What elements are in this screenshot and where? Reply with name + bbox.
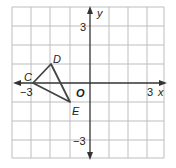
vertex-label-c: C [24, 71, 32, 83]
vertex-label-e: E [72, 105, 80, 117]
y-tick-pos: 3 [80, 21, 86, 33]
vertex-label-d: D [53, 53, 61, 65]
x-tick-neg: −3 [20, 86, 33, 98]
y-axis-arrow-down-icon [87, 152, 93, 160]
y-axis-label: y [96, 7, 104, 19]
x-tick-pos: 3 [147, 86, 153, 98]
origin-label: O [76, 87, 85, 99]
coordinate-grid: y x O 3 −3 −3 3 C D E [0, 0, 176, 168]
y-tick-neg: −3 [73, 135, 86, 147]
x-axis-label: x [157, 86, 164, 98]
